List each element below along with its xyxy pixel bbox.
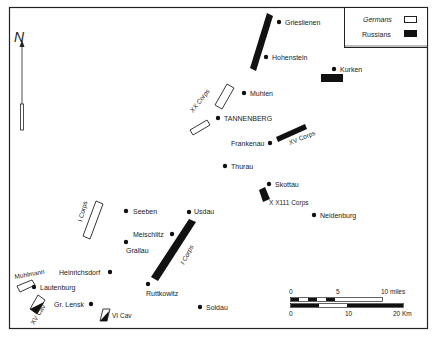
compass-letter: N xyxy=(14,29,25,45)
town-tannenberg: TANNENBERG xyxy=(224,115,272,122)
russian-corps-hohenstein xyxy=(250,13,273,71)
russian-swatch xyxy=(404,30,417,37)
german-xx-corps-north xyxy=(215,84,234,109)
label-xxiii-corps: X X111 Corps xyxy=(269,199,309,207)
town-meischlitz: Meischlitz xyxy=(133,231,164,238)
legend: Germans Russians xyxy=(345,8,428,48)
svg-text:5: 5 xyxy=(336,288,340,295)
label-i-corps-russian: I Corps xyxy=(179,243,196,266)
german-xx-corps-south xyxy=(190,120,210,135)
town-labels: Grieslienen Hohenstein Kurken Muhlen TAN… xyxy=(40,19,362,311)
town-soldau: Soldau xyxy=(206,304,228,311)
town-grieslienen: Grieslienen xyxy=(285,19,321,26)
town-lautenburg: Lautenburg xyxy=(40,284,76,292)
russian-unit-kurken xyxy=(321,74,343,82)
town-gr-lensk: Gr. Lensk xyxy=(54,301,84,308)
town-grallau: Grallau xyxy=(126,247,149,254)
german-swatch xyxy=(405,17,417,23)
town-heinrichsdorf: Heinrichsdorf xyxy=(59,269,100,276)
north-arrow-icon: N xyxy=(14,29,25,130)
town-neidenburg: Neidenburg xyxy=(320,212,356,220)
battle-map: Germans Russians N xyxy=(0,0,437,337)
svg-text:10 miles: 10 miles xyxy=(381,288,406,295)
town-hohenstein: Hohenstein xyxy=(272,54,308,61)
town-thurau: Thurau xyxy=(231,163,253,170)
town-usdau: Usdau xyxy=(194,208,214,215)
legend-russians-label: Russians xyxy=(362,31,391,38)
label-i-corps-german: I Corps xyxy=(76,199,89,222)
scale-bar: 0 5 10 miles 0 10 20 Km xyxy=(289,288,412,317)
town-frankenau: Frankenau xyxy=(231,140,265,147)
svg-text:10: 10 xyxy=(345,310,353,317)
town-seeben: Seeben xyxy=(133,208,157,215)
svg-text:0: 0 xyxy=(289,288,293,295)
town-kurken: Kurken xyxy=(340,66,362,73)
legend-germans-label: Germans xyxy=(363,16,392,23)
label-vi-cav: VI Cav xyxy=(112,312,132,319)
label-xx-corps: XX Corps xyxy=(188,87,213,115)
svg-text:20 Km: 20 Km xyxy=(393,310,412,317)
label-muhlmann: Muhlmann xyxy=(14,268,45,280)
russian-units xyxy=(151,13,343,281)
map-frame xyxy=(10,8,428,329)
svg-text:0: 0 xyxy=(289,310,293,317)
town-skottau: Skottau xyxy=(275,181,299,188)
town-muhlen: Muhlen xyxy=(250,90,273,97)
town-ruttkowitz: Ruttkowitz xyxy=(146,290,179,297)
